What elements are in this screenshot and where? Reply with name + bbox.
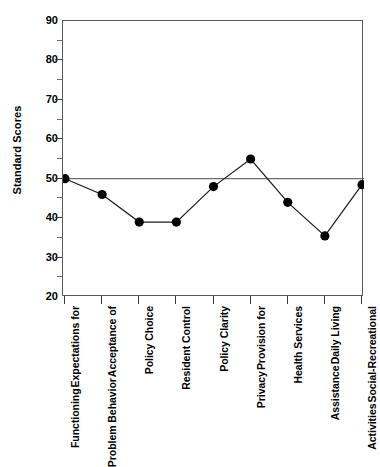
- y-tick-label-80: 80: [30, 54, 58, 65]
- data-point-8[interactable]: [357, 180, 364, 189]
- data-point-3[interactable]: [172, 217, 181, 226]
- x-label-8-line-0: Social-Recreational: [366, 306, 378, 403]
- y-tick-label-40: 40: [30, 212, 58, 223]
- x-label-8: Social-RecreationalActivities: [366, 306, 380, 424]
- y-tick-label-70: 70: [30, 93, 58, 104]
- x-label-1-line-1: Problem Behavior: [106, 378, 118, 467]
- x-axis-category-labels: Expectations forFunctioningAcceptance of…: [0, 306, 380, 427]
- x-label-3-line-0: Resident Control: [180, 306, 192, 390]
- data-point-5[interactable]: [246, 154, 255, 163]
- x-tick-7: [324, 296, 325, 304]
- x-label-7-line-1: Assistance: [329, 365, 341, 420]
- x-label-4-line-0: Policy Clarity: [218, 306, 230, 372]
- x-label-1-line-0: Acceptance of: [106, 306, 118, 377]
- y-tick-major-80: [55, 59, 62, 60]
- x-label-0-line-0: Expectations for: [69, 306, 81, 387]
- x-label-0-line-1: Functioning: [69, 388, 81, 448]
- series-line: [65, 159, 362, 236]
- plot-area: [62, 20, 363, 296]
- y-tick-label-50: 50: [30, 172, 58, 183]
- x-tick-2: [138, 296, 139, 304]
- x-tick-8: [361, 296, 362, 304]
- y-tick-label-30: 30: [30, 251, 58, 262]
- x-label-8-line-1: Activities: [366, 404, 378, 450]
- y-axis-title-text: Standard Scores: [11, 106, 23, 195]
- x-tick-1: [101, 296, 102, 304]
- y-axis-title: Standard Scores: [0, 0, 34, 300]
- x-label-5-line-0: Provision for: [255, 306, 267, 370]
- x-label-2-line-0: Policy Choice: [143, 306, 155, 374]
- x-tick-6: [287, 296, 288, 304]
- data-point-6[interactable]: [283, 198, 292, 207]
- y-tick-major-50: [55, 178, 62, 179]
- x-tick-3: [175, 296, 176, 304]
- x-tick-0: [64, 296, 65, 304]
- data-point-1[interactable]: [98, 190, 107, 199]
- x-label-7-line-0: Daily Living: [329, 306, 341, 364]
- data-point-4[interactable]: [209, 182, 218, 191]
- x-label-5-line-1: Privacy: [255, 371, 267, 408]
- x-tick-4: [213, 296, 214, 304]
- y-tick-major-40: [55, 217, 62, 218]
- y-tick-major-60: [55, 138, 62, 139]
- series-markers: [63, 154, 364, 240]
- y-axis-tick-labels: 2030405060708090: [30, 0, 58, 320]
- y-tick-label-20: 20: [30, 291, 58, 302]
- y-tick-label-90: 90: [30, 15, 58, 26]
- data-point-0[interactable]: [63, 174, 70, 183]
- data-point-7[interactable]: [320, 231, 329, 240]
- x-tick-5: [250, 296, 251, 304]
- data-point-2[interactable]: [135, 217, 144, 226]
- y-tick-label-60: 60: [30, 133, 58, 144]
- plot-canvas: [63, 21, 364, 297]
- y-tick-major-30: [55, 257, 62, 258]
- x-label-6-line-0: Health Services: [292, 306, 304, 383]
- y-tick-major-70: [55, 99, 62, 100]
